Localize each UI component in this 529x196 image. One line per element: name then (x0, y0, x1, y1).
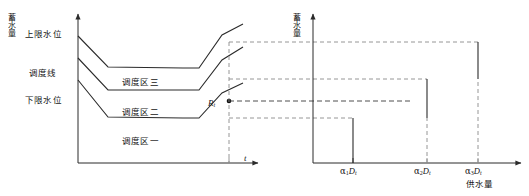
left-y-axis-label: 蓄水量 (7, 14, 17, 38)
right-y-axis-label: 蓄水量 (292, 14, 302, 38)
d-3-sub: t (480, 170, 482, 176)
label-upper-limit: 上限水位 (25, 30, 62, 39)
right-chart-steps (353, 42, 478, 163)
x-tick-label-2: α2Dt (414, 166, 431, 176)
lower-limit-curve (78, 80, 243, 118)
dispatch-figure: 蓄水量 上限水位 调度线 下限水位 调度区三 调度区二 调度区一 Rt t 蓄水… (0, 0, 529, 196)
label-zone-three: 调度区三 (122, 78, 159, 87)
dispatch-line-curve (78, 47, 243, 90)
d-2-sub: t (429, 170, 431, 176)
upper-limit-curve (78, 24, 243, 68)
label-zone-two: 调度区二 (122, 108, 159, 117)
d-1-sub: t (355, 170, 357, 176)
left-chart-curves (78, 24, 243, 118)
connector-dashed-lines (229, 42, 478, 118)
label-lower-limit: 下限水位 (25, 96, 62, 105)
right-chart-axes (313, 14, 521, 163)
right-chart-ticks (353, 158, 478, 163)
left-x-axis-label: t (244, 153, 247, 163)
rt-subscript: t (214, 101, 216, 108)
label-dispatch-line: 调度线 (29, 69, 57, 78)
rt-marker-label: Rt (208, 98, 215, 108)
label-zone-one: 调度区一 (122, 137, 159, 146)
x-tick-label-3: α3Dt (465, 166, 482, 176)
right-x-axis-label: 供水量 (466, 180, 494, 189)
figure-canvas (0, 0, 529, 196)
x-tick-label-1: α1Dt (340, 166, 357, 176)
